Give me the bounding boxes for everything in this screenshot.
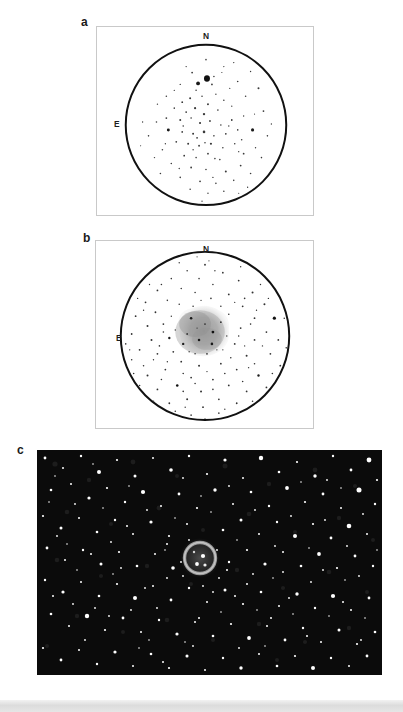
panel-label-c: c: [17, 444, 24, 456]
compass-east-label-b: E: [116, 333, 122, 343]
figure-root: a N E: [0, 0, 403, 712]
planetary-nebula-ring-c: [180, 538, 220, 578]
bright-star-pair-a: [204, 75, 210, 82]
panel-b-drawing: N E: [96, 241, 313, 428]
panel-c-starfield-image: [37, 450, 382, 675]
panel-label-a: a: [81, 16, 88, 28]
panel-c-photograph: [37, 450, 382, 675]
compass-north-label-b: N: [203, 244, 209, 254]
compass-east-label-a: E: [114, 119, 120, 129]
panel-b-sketch: N E: [95, 240, 314, 429]
compass-north-label-a: N: [203, 31, 209, 41]
field-of-view-circle-a: [126, 45, 287, 205]
panel-a-drawing: N E: [97, 27, 313, 215]
panel-a-sketch: N E: [96, 26, 314, 216]
panel-label-b: b: [83, 232, 90, 244]
bottom-band: [0, 700, 403, 712]
